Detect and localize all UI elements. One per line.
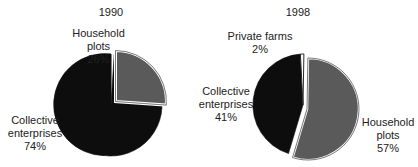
label-1998-private-farms-value: 2% [216,43,304,56]
pie-chart-1998 [253,54,359,160]
label-1998-household-plots-line2: plots [357,129,418,142]
chart-title-1990: 1990 [71,6,151,19]
label-1990-collective-enterprises-value: 74% [0,140,72,153]
label-1998-private-farms-line1: Private farms [216,30,304,43]
label-1990-household-plots-line1: Household [60,27,137,40]
label-1998-collective-enterprises-line2: enterprises [189,98,263,111]
label-1998-private-farms: Private farms 2% [216,30,304,56]
pie-charts-figure: 1990 1998 Household plots 26% Collective… [0,0,418,167]
label-1990-household-plots-line2: plots [60,40,137,53]
label-1998-household-plots-value: 57% [357,142,418,155]
label-1998-collective-enterprises-line1: Collective [189,85,263,98]
label-1998-collective-enterprises: Collective enterprises 41% [189,85,263,124]
label-1998-household-plots: Household plots 57% [357,116,418,155]
label-1998-collective-enterprises-value: 41% [189,111,263,124]
label-1990-collective-enterprises-line2: enterprises [0,127,72,140]
label-1990-household-plots: Household plots 26% [60,27,137,66]
label-1990-collective-enterprises: Collective enterprises 74% [0,114,72,153]
chart-title-1998: 1998 [258,6,338,19]
label-1990-household-plots-value: 26% [60,53,137,66]
label-1998-household-plots-line1: Household [357,116,418,129]
label-1990-collective-enterprises-line1: Collective [0,114,72,127]
